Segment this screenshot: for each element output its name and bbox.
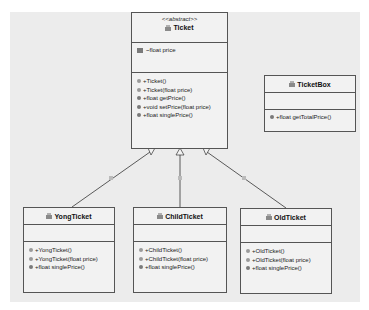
class-childticket[interactable]: ChildTicket +ChildTicket() +ChildTicket(… [133,207,227,293]
method-icon [139,265,143,269]
methods-section: +float getTotalPrice() [265,110,355,122]
method-icon [29,257,33,261]
attributes-section: ~float price [132,43,227,73]
method-row: +ChildTicket(float price) [134,255,226,264]
stereotype-label: <<abstract>> [132,13,227,23]
method-icon [137,113,141,117]
class-name: OldTicket [274,213,306,222]
class-oldticket[interactable]: OldTicket +OldTicket() +OldTicket(float … [240,208,332,294]
attributes-section [241,226,331,243]
class-header: ChildTicket [134,208,226,225]
method-row: +YongTicket() [24,246,114,255]
method-row: +OldTicket() [241,247,331,256]
method-row: +float getPrice() [132,94,227,103]
method-row: +void setPrice(float price) [132,103,227,112]
method-icon [29,248,33,252]
method-row: +float singlePrice() [241,264,331,273]
class-icon [157,213,163,219]
class-name: YongTicket [54,212,91,221]
class-icon [289,81,295,87]
method-row: +ChildTicket() [134,246,226,255]
attribute-row: ~float price [132,46,227,55]
method-row: +float singlePrice() [134,263,226,272]
method-row: +float singlePrice() [132,111,227,120]
method-icon [246,266,250,270]
method-row: +float singlePrice() [24,263,114,272]
method-icon [139,248,143,252]
methods-section: +OldTicket() +OldTicket(float price) +fl… [241,243,331,273]
methods-section: +YongTicket() +YongTicket(float price) +… [24,242,114,272]
method-icon [29,265,33,269]
method-icon [246,249,250,253]
method-icon [139,257,143,261]
class-name: Ticket [173,23,193,32]
class-header: <<abstract>> Ticket [132,13,227,43]
method-row: +Ticket() [132,77,227,86]
method-row: +Ticket(float price) [132,86,227,95]
class-icon [266,214,272,220]
class-icon [46,213,52,219]
methods-section: +Ticket() +Ticket(float price) +float ge… [132,73,227,120]
method-icon [137,105,141,109]
method-icon [137,96,141,100]
class-ticket[interactable]: <<abstract>> Ticket ~float price +Ticket… [131,12,228,149]
attributes-section [134,225,226,242]
method-icon [270,115,274,119]
class-header: TicketBox [265,76,355,93]
class-yongticket[interactable]: YongTicket +YongTicket() +YongTicket(flo… [23,207,115,293]
class-name: ChildTicket [165,212,203,221]
method-icon [137,79,141,83]
method-row: +YongTicket(float price) [24,255,114,264]
class-icon [165,25,171,31]
attributes-section [265,93,355,110]
method-icon [137,88,141,92]
method-row: +OldTicket(float price) [241,256,331,265]
class-header: YongTicket [24,208,114,225]
method-icon [246,258,250,262]
methods-section: +ChildTicket() +ChildTicket(float price)… [134,242,226,272]
attributes-section [24,225,114,242]
field-icon [137,48,143,53]
class-ticketbox[interactable]: TicketBox +float getTotalPrice() [264,75,356,132]
class-name: TicketBox [297,80,330,89]
method-row: +float getTotalPrice() [265,113,355,122]
class-header: OldTicket [241,209,331,226]
